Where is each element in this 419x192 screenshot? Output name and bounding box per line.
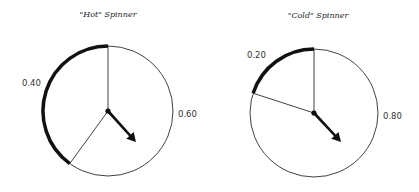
pointer-arrow-icon: [106, 109, 136, 142]
pivot-icon: [105, 108, 110, 113]
light-probability-label: 0.80: [383, 111, 402, 121]
cold-spinner: "Cold" Spinner0.200.80: [247, 11, 402, 177]
bold-probability-label: 0.40: [22, 78, 41, 88]
bold-arc: [43, 46, 108, 164]
hot-spinner: "Hot" Spinner0.400.60: [22, 10, 197, 176]
radius-line: [253, 93, 314, 113]
spinner-title: "Hot" Spinner: [80, 10, 138, 19]
spinner-title: "Cold" Spinner: [288, 11, 350, 20]
radius-line: [70, 111, 108, 164]
spinner-diagram: "Hot" Spinner0.400.60"Cold" Spinner0.200…: [0, 0, 419, 192]
bold-probability-label: 0.20: [247, 50, 266, 60]
pivot-icon: [311, 110, 316, 115]
light-probability-label: 0.60: [178, 109, 197, 119]
pointer-arrow-icon: [312, 111, 341, 142]
